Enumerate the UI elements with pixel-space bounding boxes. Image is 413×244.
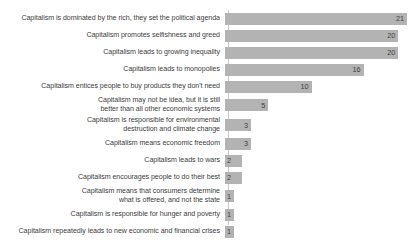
bar-category-label: Capitalism leads to growing inequality xyxy=(0,48,224,57)
bar-category-label: Capitalism is responsible for environmen… xyxy=(0,116,224,134)
bar-track: 16 xyxy=(224,61,413,78)
bar-category-label: Capitalism repeatedly leads to new econo… xyxy=(0,227,224,236)
bar-row: Capitalism leads to wars2 xyxy=(0,152,413,169)
bar: 20 xyxy=(225,30,398,42)
bar: 2 xyxy=(225,155,242,167)
bar-row: Capitalism repeatedly leads to new econo… xyxy=(0,223,413,240)
bar-value-label: 1 xyxy=(227,192,231,201)
bar-row: Capitalism entices people to buy product… xyxy=(0,78,413,95)
bar-category-label: Capitalism leads to wars xyxy=(0,156,224,165)
bar-row: Capitalism is responsible for hunger and… xyxy=(0,206,413,223)
bar-value-label: 10 xyxy=(301,82,309,91)
bar-category-label: Capitalism is dominated by the rich, the… xyxy=(0,14,224,23)
bar: 1 xyxy=(225,190,234,202)
bar-value-label: 21 xyxy=(396,14,404,23)
bar-track: 20 xyxy=(224,44,413,61)
bar-category-label: Capitalism promotes selfishness and gree… xyxy=(0,31,224,40)
bar-category-label: Capitalism means economic freedom xyxy=(0,139,224,148)
bar-row: Capitalism means economic freedom3 xyxy=(0,135,413,152)
bar-category-label: Capitalism entices people to buy product… xyxy=(0,82,224,91)
bar-track: 10 xyxy=(224,78,413,95)
bar-row: Capitalism encourages people to do their… xyxy=(0,169,413,186)
bar: 1 xyxy=(225,209,234,221)
bar-value-label: 3 xyxy=(244,121,248,130)
bar-category-label: Capitalism encourages people to do their… xyxy=(0,173,224,182)
bar-value-label: 2 xyxy=(227,156,231,165)
bar: 21 xyxy=(225,13,407,25)
bar-value-label: 1 xyxy=(227,210,231,219)
bar-category-label: Capitalism is responsible for hunger and… xyxy=(0,210,224,219)
bar-value-label: 16 xyxy=(353,65,361,74)
bar: 20 xyxy=(225,47,398,59)
bar-value-label: 20 xyxy=(387,48,395,57)
bar-track: 3 xyxy=(224,135,413,152)
bar-row: Capitalism means that consumers determin… xyxy=(0,186,413,206)
bar: 5 xyxy=(225,99,268,111)
bar-category-label: Capitalism may not be idea, but it is st… xyxy=(0,96,224,114)
bar-track: 1 xyxy=(224,223,413,240)
bar-value-label: 1 xyxy=(227,227,231,236)
bar-value-label: 20 xyxy=(387,31,395,40)
bar-value-label: 5 xyxy=(261,101,265,110)
bar: 10 xyxy=(225,81,312,93)
bar: 3 xyxy=(225,138,251,150)
bar-track: 20 xyxy=(224,27,413,44)
bar: 1 xyxy=(225,226,234,238)
bar-category-label: Capitalism means that consumers determin… xyxy=(0,187,224,205)
bar: 16 xyxy=(225,64,364,76)
bar-track: 21 xyxy=(224,10,413,27)
bar-track: 1 xyxy=(224,188,413,205)
bar-row: Capitalism is responsible for environmen… xyxy=(0,115,413,135)
bar-row: Capitalism is dominated by the rich, the… xyxy=(0,10,413,27)
bar-row: Capitalism leads to growing inequality20 xyxy=(0,44,413,61)
bar: 3 xyxy=(225,119,251,131)
bar-row: Capitalism may not be idea, but it is st… xyxy=(0,95,413,115)
bar-track: 1 xyxy=(224,206,413,223)
bar-row: Capitalism promotes selfishness and gree… xyxy=(0,27,413,44)
horizontal-bar-chart: Capitalism is dominated by the rich, the… xyxy=(0,0,413,244)
bar-track: 2 xyxy=(224,169,413,186)
bar-track: 2 xyxy=(224,152,413,169)
bar-category-label: Capitalism leads to monopolies xyxy=(0,65,224,74)
bar-row: Capitalism leads to monopolies16 xyxy=(0,61,413,78)
bar: 2 xyxy=(225,172,242,184)
bar-track: 5 xyxy=(224,97,413,114)
bar-value-label: 3 xyxy=(244,139,248,148)
bar-value-label: 2 xyxy=(227,173,231,182)
bar-rows-container: Capitalism is dominated by the rich, the… xyxy=(0,10,413,240)
bar-track: 3 xyxy=(224,117,413,134)
